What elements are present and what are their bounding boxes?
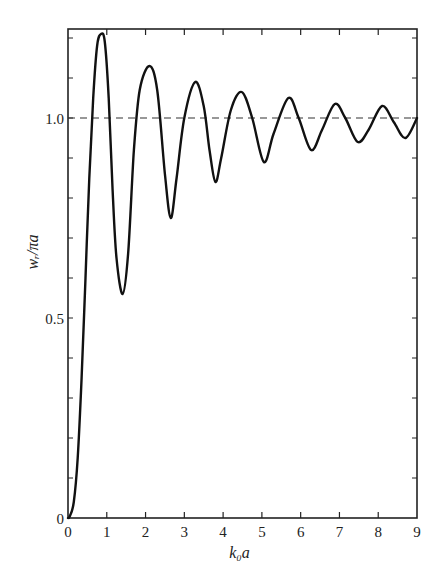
x-tick-label: 6 [297, 524, 305, 540]
x-tick-label: 4 [219, 524, 227, 540]
x-tick-label: 3 [181, 524, 189, 540]
x-tick-label: 2 [142, 524, 150, 540]
plot-frame [68, 29, 417, 518]
y-axis-title: wᵣ/πa [24, 234, 41, 269]
x-tick-label: 1 [103, 524, 111, 540]
x-axis-title: k₀a [229, 544, 250, 561]
line-chart: 0123456789 00.51.0 k₀a wᵣ/πa [0, 0, 444, 588]
y-tick-label: 0 [57, 511, 65, 527]
x-tick-label: 0 [64, 524, 72, 540]
y-minor-ticks [68, 38, 417, 478]
x-axis-ticks: 0123456789 [64, 29, 421, 540]
y-tick-label: 1.0 [45, 111, 64, 127]
y-tick-label: 0.5 [45, 311, 64, 327]
data-curve [68, 33, 417, 518]
x-tick-label: 9 [413, 524, 421, 540]
y-axis-ticks: 00.51.0 [45, 111, 64, 527]
x-tick-label: 7 [336, 524, 344, 540]
x-tick-label: 8 [374, 524, 382, 540]
x-tick-label: 5 [258, 524, 266, 540]
